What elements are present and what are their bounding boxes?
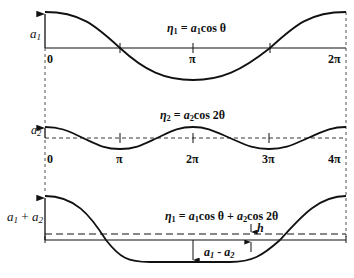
panel-2-tick-4pi: 4π <box>328 153 341 165</box>
panel-1-amplitude-label: a1 <box>30 27 41 42</box>
panel-2-tick-3pi: 3π <box>262 153 275 165</box>
panel-2-tick-0: 0 <box>47 153 53 165</box>
panel-1-tick-2pi: 2π <box>328 53 341 65</box>
panel-3-curve <box>45 196 346 262</box>
panel-1-equation: η1 = a1cos θ <box>167 22 226 36</box>
offset-h-label: h <box>257 222 264 234</box>
panel-3-amplitude-label: a1 + a2 <box>7 210 43 225</box>
panel-2-tick-2pi: 2π <box>186 153 199 165</box>
panel-1-tick-0: 0 <box>47 53 53 65</box>
trough-label: a1 - a2 <box>204 246 234 260</box>
panel-2-equation: η2 = a2cos 2θ <box>160 109 225 123</box>
vertical-guides <box>45 12 346 240</box>
panel-1-tick-pi: π <box>189 53 196 65</box>
panel-2 <box>45 127 346 149</box>
panel-2-amplitude-label: a2 <box>31 124 41 138</box>
panel-2-tick-pi: π <box>116 153 123 165</box>
panel-3 <box>45 196 346 262</box>
wave-superposition-diagram <box>0 0 354 278</box>
